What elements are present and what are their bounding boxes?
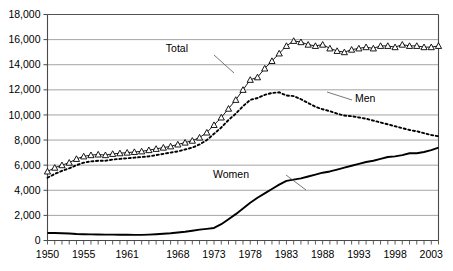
series-line-total: [48, 41, 439, 172]
series-marker-total: [320, 42, 326, 48]
y-axis-tick-label: 8,000: [14, 134, 40, 146]
series-marker-total: [66, 160, 72, 166]
y-axis-tick-label: 6,000: [14, 159, 40, 171]
y-axis-tick-label: 2,000: [14, 209, 40, 221]
x-axis-tick-label: 1955: [72, 248, 96, 260]
x-axis-tick-label: 2003: [420, 248, 444, 260]
chart-container: 02,0004,0006,0008,00010,00012,00014,0001…: [0, 0, 453, 271]
series-marker-total: [305, 42, 311, 48]
y-axis-tick-label: 16,000: [8, 33, 40, 45]
series-marker-total: [291, 38, 297, 44]
y-axis-tick-label: 14,000: [8, 58, 40, 70]
series-marker-total: [327, 45, 333, 51]
series-marker-total: [95, 151, 101, 157]
series-annotation-men: Men: [355, 92, 376, 104]
series-marker-total: [44, 168, 50, 174]
series-annotation-women: Women: [213, 168, 249, 180]
x-axis-tick-label: 1998: [383, 248, 407, 260]
x-axis-tick-label: 1968: [166, 248, 190, 260]
y-axis-tick-label: 4,000: [14, 184, 40, 196]
series-marker-total: [196, 134, 202, 140]
series-marker-total: [363, 44, 369, 50]
x-axis-tick-label: 1961: [115, 248, 139, 260]
line-chart: 02,0004,0006,0008,00010,00012,00014,0001…: [0, 0, 453, 271]
x-axis-tick-label: 1993: [347, 248, 371, 260]
y-axis-tick-label: 0: [35, 234, 41, 246]
annotation-leader-line-total: [214, 55, 234, 73]
x-axis-tick-label: 1988: [311, 248, 335, 260]
y-axis-tick-label: 10,000: [8, 109, 40, 121]
series-marker-total: [435, 43, 441, 49]
y-axis-tick-label: 18,000: [8, 8, 40, 20]
annotation-leader-line-men: [327, 92, 352, 100]
series-annotation-total: Total: [166, 42, 188, 54]
x-axis-tick-label: 1950: [36, 248, 60, 260]
x-axis-tick-label: 1978: [239, 248, 263, 260]
series-marker-total: [283, 43, 289, 49]
series-marker-total: [399, 42, 405, 48]
x-axis-tick-label: 1973: [202, 248, 226, 260]
x-axis-tick-label: 1983: [275, 248, 299, 260]
y-axis-tick-label: 12,000: [8, 83, 40, 95]
